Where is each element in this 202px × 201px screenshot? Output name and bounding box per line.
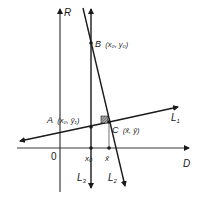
point-b xyxy=(89,41,93,45)
point-c xyxy=(107,120,111,124)
x0-tick-label: x₀ xyxy=(84,154,93,163)
econometric-diagram: R D 0 L3 L2 L1 B (x₀, y₀) A (x₀, ȳ xyxy=(0,0,202,201)
point-xbar xyxy=(107,146,111,150)
origin-label: 0 xyxy=(51,151,57,162)
l3-label: L3 xyxy=(77,172,87,184)
d-axis-label: D xyxy=(183,158,190,169)
xbar-tick-label: x̄ xyxy=(104,154,110,163)
l1-label: L1 xyxy=(171,112,180,124)
hatched-region xyxy=(101,116,108,123)
l2-label: L2 xyxy=(108,172,118,184)
point-c-label: C (x̄, ȳ) xyxy=(112,125,140,135)
point-b-label: B (x₀, y₀) xyxy=(95,39,129,49)
point-a-label: A (x₀, ȳ₁) xyxy=(46,115,80,125)
r-axis-label: R xyxy=(64,7,71,18)
line-l1 xyxy=(20,107,178,141)
point-a xyxy=(89,125,93,129)
point-x0 xyxy=(89,146,93,150)
